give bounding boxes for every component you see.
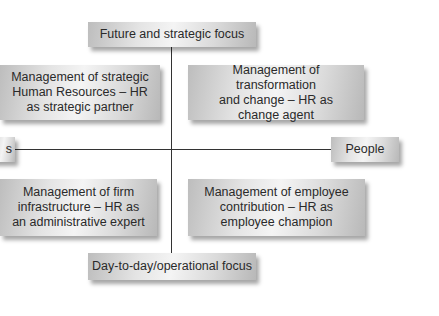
horizontal-axis-line: [14, 149, 332, 150]
quadrant-text-line: employee champion: [204, 215, 349, 230]
quadrant-text-line: infrastructure – HR as: [12, 200, 145, 215]
quadrant-top-left: Management of strategic Human Resources …: [0, 65, 160, 120]
vertical-axis-line: [171, 46, 172, 254]
quadrant-text-line: Human Resources – HR: [11, 85, 149, 100]
axis-label-left: s: [0, 137, 15, 162]
axis-label-top-text: Future and strategic focus: [100, 27, 245, 42]
quadrant-text-line: Management of transformation: [192, 63, 360, 93]
axis-label-left-text: s: [6, 142, 12, 157]
quadrant-text-line: Management of strategic: [11, 70, 149, 85]
axis-label-bottom: Day-to-day/operational focus: [88, 253, 256, 280]
axis-label-top: Future and strategic focus: [88, 22, 256, 47]
quadrant-bottom-right: Management of employee contribution – HR…: [188, 179, 365, 236]
axis-label-right-text: People: [346, 142, 385, 157]
quadrant-text-line: contribution – HR as: [204, 200, 349, 215]
quadrant-top-right: Management of transformation and change …: [188, 65, 364, 120]
quadrant-text-line: change agent: [192, 108, 360, 123]
quadrant-text-line: an administrative expert: [12, 215, 145, 230]
quadrant-text-line: Management of firm: [12, 185, 145, 200]
quadrant-text-line: as strategic partner: [11, 100, 149, 115]
axis-label-right: People: [331, 137, 399, 162]
axis-label-bottom-text: Day-to-day/operational focus: [92, 259, 252, 274]
quadrant-text-line: and change – HR as: [192, 93, 360, 108]
quadrant-text-line: Management of employee: [204, 185, 349, 200]
quadrant-bottom-left: Management of firm infrastructure – HR a…: [0, 179, 157, 236]
